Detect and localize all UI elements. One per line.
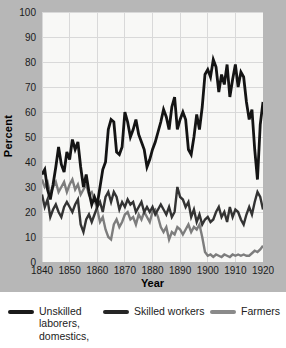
x-tick-label: 1840 (31, 265, 53, 276)
x-axis-ticks: 184018501860187018801890190019101920 (42, 265, 263, 277)
y-tick-label: 20 (25, 207, 36, 218)
x-axis-title: Year (42, 277, 263, 289)
legend-item-farmers: Farmers (210, 305, 280, 317)
legend-label: Unskilled laborers, domestics, (39, 305, 101, 342)
legend: Unskilled laborers, domestics, Skilled w… (0, 292, 286, 348)
y-tick-label: 60 (25, 107, 36, 118)
x-tick-label: 1910 (224, 265, 246, 276)
farmers-line-swatch (210, 310, 236, 314)
y-tick-label: 40 (25, 157, 36, 168)
y-axis-ticks: 1009080706050403020100 (0, 12, 38, 262)
skilled-workers-line-swatch (103, 310, 129, 314)
chart-panel: Percent 1009080706050403020100 184018501… (0, 0, 286, 292)
y-tick-label: 50 (25, 132, 36, 143)
x-tick-label: 1890 (169, 265, 191, 276)
legend-item-skilled-workers: Skilled workers (103, 305, 205, 317)
x-tick-label: 1920 (252, 265, 274, 276)
legend-label: Skilled workers (134, 305, 205, 317)
x-tick-label: 1870 (114, 265, 136, 276)
y-tick-label: 70 (25, 82, 36, 93)
y-tick-label: 80 (25, 57, 36, 68)
unskilled-line-swatch (8, 310, 34, 314)
y-tick-label: 90 (25, 32, 36, 43)
x-tick-label: 1880 (141, 265, 163, 276)
y-tick-label: 10 (25, 232, 36, 243)
legend-label: Farmers (241, 305, 280, 317)
x-tick-label: 1860 (86, 265, 108, 276)
line-chart (42, 12, 263, 262)
y-tick-label: 100 (19, 7, 36, 18)
figure: Percent 1009080706050403020100 184018501… (0, 0, 286, 348)
x-tick-label: 1900 (197, 265, 219, 276)
legend-item-unskilled: Unskilled laborers, domestics, (8, 305, 101, 342)
y-tick-label: 30 (25, 182, 36, 193)
x-tick-label: 1850 (59, 265, 81, 276)
